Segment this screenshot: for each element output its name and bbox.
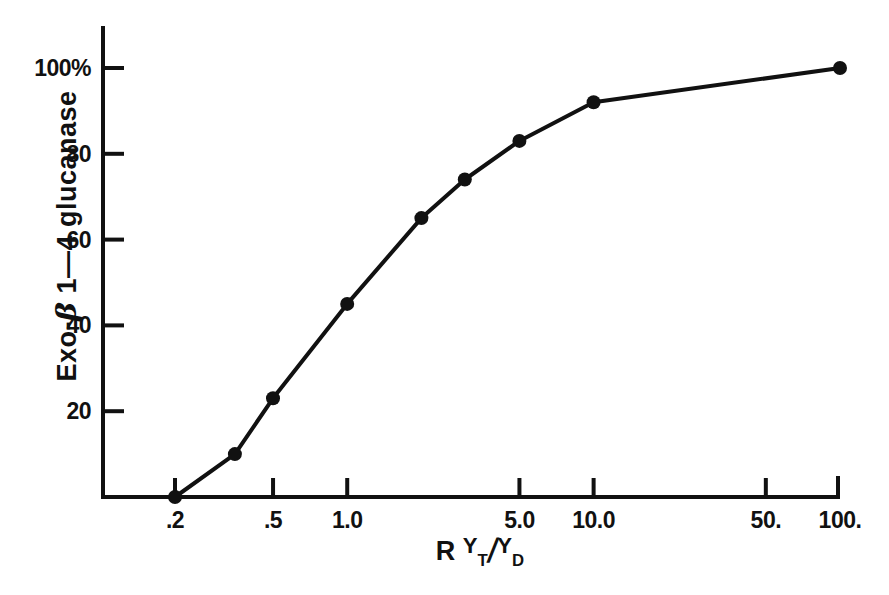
x-axis-tick-label: 5.0 bbox=[504, 507, 534, 534]
x-axis-tick-label: 100. bbox=[819, 507, 862, 534]
x-axis-title: R YT/YD bbox=[300, 533, 660, 571]
x-axis-tick-label: .5 bbox=[264, 507, 282, 534]
data-point-marker bbox=[414, 211, 428, 225]
x-axis-tick-label: 1.0 bbox=[332, 507, 362, 534]
x-axis-numerator-var: Y bbox=[463, 533, 478, 558]
data-point-marker bbox=[228, 447, 242, 461]
data-point-marker bbox=[458, 173, 472, 187]
y-axis-ticks bbox=[103, 68, 124, 411]
x-axis-tick-label: .2 bbox=[166, 507, 184, 534]
data-point-marker bbox=[266, 391, 280, 405]
x-axis-ticks bbox=[175, 478, 838, 497]
x-axis-tick-label: 50. bbox=[751, 507, 781, 534]
data-point-marker bbox=[587, 95, 601, 109]
y-axis-title: Exo-β 1—4 glucanase bbox=[46, 0, 86, 496]
data-point-marker bbox=[512, 134, 526, 148]
y-axis-title-suffix: 1—4 glucanase bbox=[52, 90, 82, 301]
x-axis-tick-label: 10.0 bbox=[572, 507, 615, 534]
data-point-marker bbox=[168, 490, 182, 504]
beta-symbol: β bbox=[49, 302, 83, 322]
x-axis-title-ratio: YT/YD bbox=[463, 533, 524, 571]
x-axis-title-r: R bbox=[436, 536, 456, 566]
data-series-line bbox=[175, 68, 840, 497]
axes-lines bbox=[103, 28, 838, 497]
chart-figure: 20406080100% .2.51.05.010.050.100. Exo-β… bbox=[0, 0, 889, 595]
data-point-markers bbox=[168, 61, 847, 504]
data-point-marker bbox=[340, 297, 354, 311]
data-point-marker bbox=[833, 61, 847, 75]
chart-plot-area bbox=[0, 0, 889, 595]
y-axis-title-prefix: Exo- bbox=[52, 321, 82, 382]
x-axis-denominator-sub: D bbox=[512, 551, 524, 570]
